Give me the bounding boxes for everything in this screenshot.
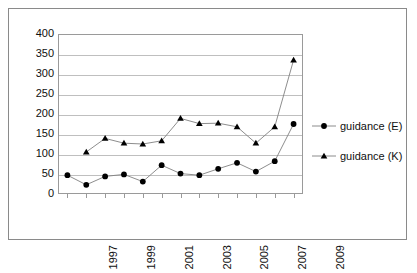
x-axis-tick-label: 1999: [145, 245, 157, 273]
circle-marker: [121, 172, 127, 178]
chart-frame: 050100150200250300350400 199719992001200…: [8, 8, 407, 240]
x-axis-tick-label: 2009: [334, 245, 346, 273]
triangle-marker: [83, 149, 90, 155]
x-axis-tick-label: 2001: [183, 245, 195, 273]
y-axis-tick-label: 0: [14, 188, 54, 199]
circle-marker: [321, 123, 327, 129]
legend-marker-sample: [311, 147, 337, 165]
legend-item-1[interactable]: guidance (E): [311, 117, 411, 135]
y-axis-tick-label: 350: [14, 48, 54, 59]
x-axis-tick-label: 1997: [107, 245, 119, 273]
data-series-layer: [58, 34, 303, 194]
triangle-marker: [215, 120, 222, 126]
circle-marker: [178, 171, 184, 177]
circle-marker: [83, 182, 89, 188]
y-axis-tick-label: 200: [14, 108, 54, 119]
x-axis-tick-mark: [256, 194, 257, 198]
x-axis-tick-mark: [67, 194, 68, 198]
legend-label: guidance (K): [340, 147, 402, 165]
x-axis-tick-mark: [86, 194, 87, 198]
series-line-2: [86, 60, 293, 152]
y-axis-tick-label: 150: [14, 128, 54, 139]
x-axis-tick-mark: [162, 194, 163, 198]
triangle-marker: [321, 153, 328, 159]
x-axis-tick-mark: [181, 194, 182, 198]
circle-marker: [215, 166, 221, 172]
legend-item-2[interactable]: guidance (K): [311, 147, 411, 165]
x-axis-tick-mark: [294, 194, 295, 198]
x-axis-tick-mark: [218, 194, 219, 198]
x-axis-labels: 1997199920012003200520072009: [58, 199, 303, 245]
circle-marker: [196, 172, 202, 178]
chart-legend: guidance (E)guidance (K): [311, 117, 411, 177]
x-axis-tick-label: 2005: [258, 245, 270, 273]
legend-marker-sample: [311, 117, 337, 135]
y-axis-tick-label: 100: [14, 148, 54, 159]
x-axis-tick-mark: [275, 194, 276, 198]
triangle-marker: [102, 135, 109, 141]
circle-marker: [65, 172, 71, 178]
x-axis-tick-label: 2003: [221, 245, 233, 273]
x-axis-tick-mark: [237, 194, 238, 198]
x-axis-tick-mark: [124, 194, 125, 198]
triangle-marker: [177, 115, 184, 121]
circle-marker: [159, 162, 165, 168]
x-axis-tick-label: 2007: [296, 245, 308, 273]
y-axis-tick-label: 250: [14, 88, 54, 99]
circle-marker: [291, 121, 297, 127]
y-axis-tick-label: 400: [14, 28, 54, 39]
circle-marker: [253, 169, 259, 175]
triangle-marker: [290, 57, 297, 63]
y-axis-tick-label: 300: [14, 68, 54, 79]
circle-marker: [140, 179, 146, 185]
x-axis-tick-mark: [143, 194, 144, 198]
circle-marker: [102, 174, 108, 180]
triangle-marker: [271, 123, 278, 129]
y-axis-tick-label: 50: [14, 168, 54, 179]
x-axis-tick-mark: [105, 194, 106, 198]
circle-marker: [234, 160, 240, 166]
circle-marker: [272, 158, 278, 164]
y-axis-labels: 050100150200250300350400: [13, 34, 54, 194]
x-axis-tick-mark: [199, 194, 200, 198]
legend-label: guidance (E): [340, 117, 402, 135]
